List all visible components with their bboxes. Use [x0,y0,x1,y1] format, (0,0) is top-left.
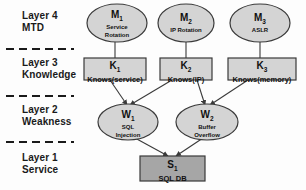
edge-w1-s1 [135,138,168,156]
layer-3-number: Layer 3 [22,57,76,69]
layer-1-name: Service [22,164,58,176]
node-w1[interactable] [98,104,158,140]
node-k1[interactable] [84,58,146,80]
layer-1-number: Layer 1 [22,152,58,164]
edge-k2-w1 [130,80,172,105]
edge-k1-w1 [110,80,127,105]
layer-4-name: MTD [22,22,58,34]
edge-k3-w2 [210,80,248,105]
layer-4-number: Layer 4 [22,10,58,22]
layer-label-3: Layer 3 Knowledge [22,57,76,81]
node-k2[interactable] [160,58,212,80]
layer-label-1: Layer 1 Service [22,152,58,176]
layer-label-2: Layer 2 Weakness [22,104,72,128]
diagram-canvas: Layer 4 MTD Layer 3 Knowledge Layer 2 We… [0,0,306,190]
layer-3-name: Knowledge [22,69,76,81]
node-s1[interactable] [140,156,205,181]
layer-2-number: Layer 2 [22,104,72,116]
node-m1[interactable] [87,4,147,42]
node-m3[interactable] [230,4,290,42]
edge-k2-w2 [197,80,205,105]
edge-w2-s1 [176,138,203,156]
layer-label-4: Layer 4 MTD [22,10,58,34]
node-m2[interactable] [158,4,214,42]
node-k3[interactable] [228,58,296,80]
layer-2-name: Weakness [22,116,72,128]
node-w2[interactable] [176,104,238,140]
